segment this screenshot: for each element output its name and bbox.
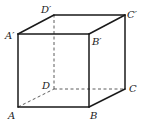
label-B1: B′	[91, 36, 102, 47]
edge-D1A1	[18, 15, 54, 34]
label-C1: C′	[127, 9, 138, 20]
label-D: D	[41, 80, 50, 91]
label-D1: D′	[40, 4, 52, 15]
edge-BC	[89, 89, 125, 107]
label-A: A	[7, 110, 15, 121]
cube-diagram: A B C D A′ B′ C′ D′	[0, 0, 143, 125]
edge-AD	[18, 89, 54, 107]
edge-B1C1	[89, 15, 125, 34]
label-B: B	[89, 110, 97, 121]
label-A1: A′	[4, 30, 15, 41]
label-C: C	[129, 83, 137, 94]
